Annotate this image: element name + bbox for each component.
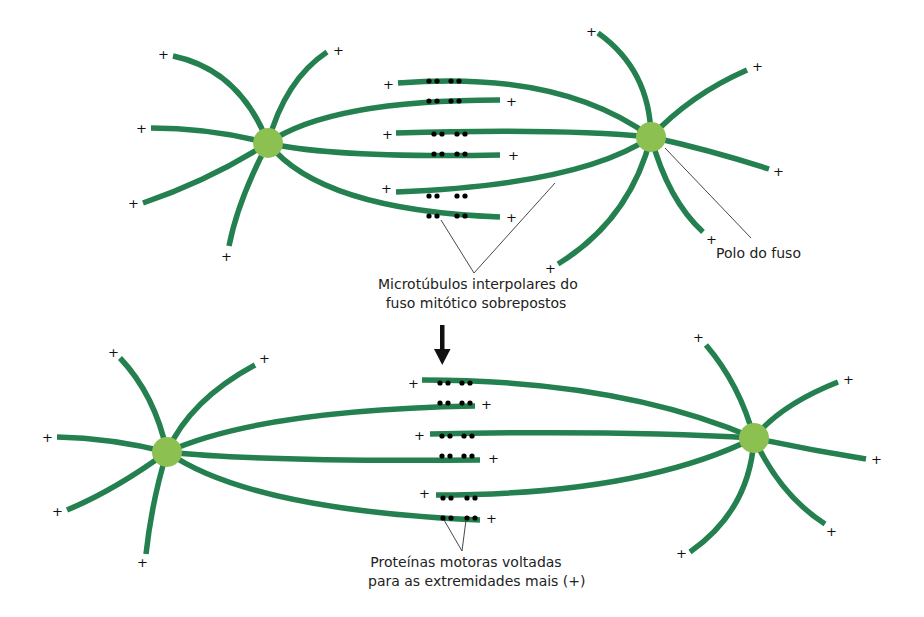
- left-interpolar-microtubules: [268, 100, 500, 217]
- svg-text:+: +: [382, 127, 393, 142]
- svg-text:+: +: [221, 249, 232, 264]
- svg-text:+: +: [333, 43, 344, 58]
- svg-text:+: +: [108, 345, 119, 360]
- svg-text:+: +: [381, 181, 392, 196]
- svg-text:+: +: [136, 121, 147, 136]
- svg-text:+: +: [128, 196, 139, 211]
- right-astral-microtubules-bottom: [690, 345, 866, 552]
- svg-text:+: +: [408, 376, 419, 391]
- svg-text:+: +: [693, 330, 704, 345]
- left-spindle-pole-bottom: [152, 437, 182, 467]
- svg-text:+: +: [481, 397, 492, 412]
- down-arrow-icon: [434, 325, 451, 365]
- svg-text:+: +: [506, 94, 517, 109]
- svg-text:+: +: [676, 546, 687, 561]
- motor-leader-line-2: [462, 520, 466, 551]
- right-spindle-pole: [636, 122, 666, 152]
- svg-text:+: +: [506, 210, 517, 225]
- svg-text:+: +: [52, 504, 63, 519]
- svg-text:+: +: [508, 148, 519, 163]
- svg-text:+: +: [826, 524, 837, 539]
- motor-label-line2: para as extremidades mais (+): [368, 572, 564, 591]
- svg-text:+: +: [419, 486, 430, 501]
- spindle-pole-label: Polo do fuso: [716, 244, 801, 263]
- interpolar-leader-line-1: [441, 220, 474, 273]
- svg-text:+: +: [488, 451, 499, 466]
- svg-text:+: +: [137, 555, 148, 570]
- interpolar-microtubules-label: Microtúbulos interpolares do fuso mitóti…: [378, 275, 574, 313]
- interpolar-label-line1: Microtúbulos interpolares do: [378, 275, 574, 294]
- motor-leader-line-1: [444, 520, 462, 551]
- svg-text:+: +: [586, 24, 597, 39]
- svg-text:+: +: [383, 77, 394, 92]
- interpolar-leader-line-2: [474, 183, 555, 273]
- motor-proteins-label: Proteínas motoras voltadas para as extre…: [368, 553, 564, 591]
- svg-text:+: +: [871, 452, 882, 467]
- left-interpolar-microtubules-bottom: [167, 406, 480, 520]
- svg-text:+: +: [843, 372, 854, 387]
- right-spindle-pole-bottom: [739, 423, 769, 453]
- left-spindle-pole: [253, 128, 283, 158]
- top-panel-before: + + + + + + + + + + + + + + + +: [128, 24, 784, 276]
- svg-text:+: +: [414, 428, 425, 443]
- svg-text:+: +: [773, 164, 784, 179]
- svg-text:+: +: [486, 511, 497, 526]
- plus-end-markers-top: + + + + + + + + + + + + + + + +: [128, 24, 784, 276]
- right-astral-microtubules: [558, 33, 769, 264]
- svg-text:+: +: [259, 351, 270, 366]
- svg-text:+: +: [42, 430, 53, 445]
- spindle-pole-label-text: Polo do fuso: [716, 245, 801, 261]
- bottom-panel-after: + + + + + + + + + + + + + + + +: [42, 330, 882, 570]
- svg-text:+: +: [752, 59, 763, 74]
- svg-text:+: +: [158, 47, 169, 62]
- motor-proteins-bottom: [437, 380, 477, 520]
- motor-label-line1: Proteínas motoras voltadas: [368, 553, 564, 572]
- svg-text:+: +: [545, 261, 556, 276]
- interpolar-label-line2: fuso mitótico sobrepostos: [378, 294, 574, 313]
